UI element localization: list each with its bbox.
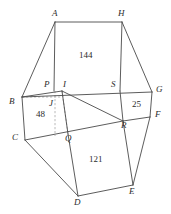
edge-R-E-line <box>123 121 133 185</box>
edge-B-C-line <box>22 97 25 140</box>
edge-H-S-line <box>120 22 122 91</box>
square-48-edges <box>25 121 123 140</box>
area-label-48: 48 <box>36 110 45 119</box>
vertex-label-F: F <box>155 110 161 119</box>
inner-triangle-edges <box>62 91 123 134</box>
edge-A-P-line <box>54 22 55 91</box>
geometry-figure: A H B G C F D E P I S J Q R 144 48 121 2… <box>0 0 171 214</box>
vertex-label-C: C <box>12 133 18 142</box>
edge-F-E-line <box>133 117 150 185</box>
vertex-label-E: E <box>129 187 135 196</box>
vertex-label-R: R <box>121 121 127 130</box>
area-label-144: 144 <box>79 51 93 60</box>
edge-I-R-line <box>62 91 123 121</box>
area-label-121: 121 <box>89 155 103 164</box>
vertex-label-H: H <box>118 9 125 18</box>
vertex-label-S: S <box>111 80 116 89</box>
area-label-25: 25 <box>132 100 141 109</box>
vertex-label-D: D <box>74 198 81 207</box>
edge-C-R-line <box>25 121 123 140</box>
edge-A-B-line <box>22 22 55 97</box>
vertex-label-P: P <box>44 80 50 89</box>
vertex-label-Q: Q <box>65 134 72 143</box>
vertex-label-A: A <box>52 9 58 18</box>
figure-canvas <box>0 0 171 214</box>
vertex-label-J: J <box>49 99 53 108</box>
edge-S-R-line <box>120 91 123 121</box>
vertex-label-B: B <box>9 97 15 106</box>
vertex-label-G: G <box>156 85 163 94</box>
dashed-construction-lines <box>22 91 68 136</box>
vertex-label-I: I <box>63 80 66 89</box>
edge-H-G-line <box>122 22 152 92</box>
edge-D-E-line <box>78 185 133 196</box>
edge-R-F-line <box>123 117 150 121</box>
edge-I-Q-line <box>62 91 68 134</box>
edge-G-F-line <box>150 92 152 117</box>
